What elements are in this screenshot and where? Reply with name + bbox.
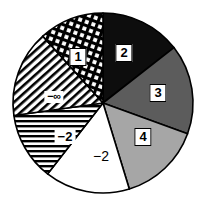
pie-chart-svg	[0, 0, 207, 202]
pie-chart-figure: 234−2−2−∞1	[0, 0, 207, 202]
pie-slice-layer	[13, 13, 193, 193]
